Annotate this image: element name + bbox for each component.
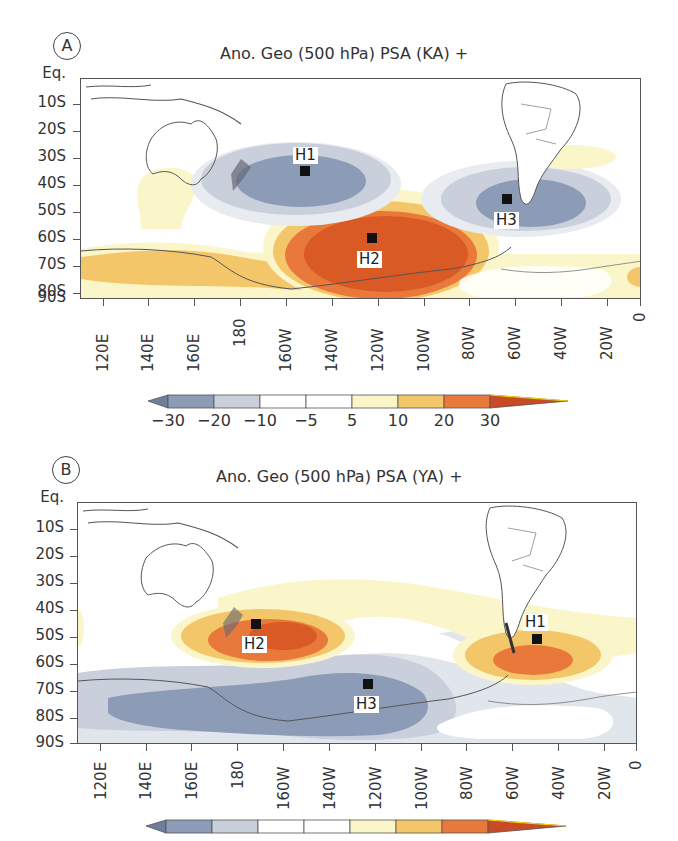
y-label-70s: 70S	[20, 680, 64, 698]
x-tick	[636, 744, 637, 751]
x-tick	[283, 744, 284, 751]
colorbar-b	[146, 819, 571, 835]
x-label-160w: 160W	[275, 767, 293, 810]
y-tick	[70, 718, 77, 719]
marker-label-h1: H1	[523, 614, 548, 631]
x-label-120e: 120E	[92, 762, 110, 800]
marker-h3	[363, 679, 373, 689]
x-tick	[421, 744, 422, 751]
x-label-40w: 40W	[550, 766, 568, 800]
x-label-120w: 120W	[367, 767, 385, 810]
panel-b: B Ano. Geo (500 hPa) PSA (YA) + Eq. 10S …	[0, 0, 678, 841]
y-tick	[70, 583, 77, 584]
y-label-10s: 10S	[20, 518, 64, 536]
x-label-140w: 140W	[321, 767, 339, 810]
x-label-60w: 60W	[504, 766, 522, 800]
y-tick	[70, 529, 77, 530]
x-tick	[237, 744, 238, 751]
y-tick	[70, 691, 77, 692]
x-label-180: 180	[229, 760, 247, 789]
x-tick	[146, 744, 147, 751]
y-label-30s: 30S	[20, 572, 64, 590]
x-label-80w: 80W	[458, 766, 476, 800]
x-tick	[466, 744, 467, 751]
x-tick	[558, 744, 559, 751]
panel-b-letter: B	[52, 456, 80, 484]
x-label-140e: 140E	[137, 762, 155, 800]
panel-b-title: Ano. Geo (500 hPa) PSA (YA) +	[216, 467, 463, 486]
y-label-eq: Eq.	[20, 488, 64, 506]
y-label-80s: 80S	[20, 707, 64, 725]
x-label-160e: 160E	[183, 762, 201, 800]
x-tick	[512, 744, 513, 751]
x-label-0: 0	[627, 760, 645, 770]
y-tick	[70, 664, 77, 665]
y-label-50s: 50S	[20, 626, 64, 644]
x-tick	[375, 744, 376, 751]
x-tick	[100, 744, 101, 751]
y-tick	[70, 610, 77, 611]
marker-h2	[251, 619, 261, 629]
y-label-60s: 60S	[20, 653, 64, 671]
y-label-40s: 40S	[20, 599, 64, 617]
marker-label-h2: H2	[242, 636, 267, 653]
marker-h1	[532, 634, 542, 644]
x-label-100w: 100W	[413, 767, 431, 810]
y-label-90s: 90S	[20, 733, 64, 751]
marker-label-h3: H3	[354, 696, 379, 713]
y-label-20s: 20S	[20, 545, 64, 563]
x-tick	[604, 744, 605, 751]
y-tick	[70, 637, 77, 638]
y-tick	[70, 743, 77, 744]
x-tick	[191, 744, 192, 751]
x-tick	[329, 744, 330, 751]
y-tick	[70, 556, 77, 557]
x-label-20w: 20W	[596, 766, 614, 800]
